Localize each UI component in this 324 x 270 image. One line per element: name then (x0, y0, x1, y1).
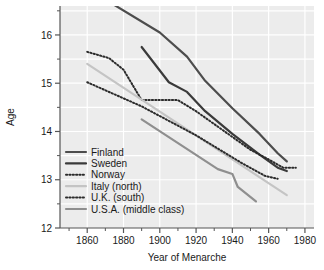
legend-label: Sweden (91, 158, 127, 169)
x-tick-label: 1920 (185, 235, 208, 246)
y-tick-label: 12 (41, 223, 53, 234)
chart-container: 12131415161860188019001920194019601980Ye… (0, 0, 324, 270)
menarche-age-line-chart: 12131415161860188019001920194019601980Ye… (0, 0, 324, 270)
x-axis: 1860188019001920194019601980 (69, 228, 316, 246)
y-tick-label: 13 (41, 174, 53, 185)
y-axis: 1213141516 (41, 11, 60, 234)
legend-label: U.S.A. (middle class) (91, 204, 184, 215)
x-tick-label: 1940 (221, 235, 244, 246)
x-tick-label: 1980 (294, 235, 317, 246)
y-tick-label: 14 (41, 126, 53, 137)
y-axis-title: Age (5, 108, 16, 126)
x-axis-title: Year of Menarche (148, 252, 227, 263)
x-tick-label: 1900 (149, 235, 172, 246)
y-tick-label: 16 (41, 30, 53, 41)
legend-label: Norway (91, 169, 125, 180)
legend-label: Finland (91, 147, 124, 158)
x-tick-label: 1960 (258, 235, 281, 246)
x-tick-label: 1860 (76, 235, 99, 246)
legend-label: U.K. (south) (91, 192, 144, 203)
legend-label: Italy (north) (91, 181, 142, 192)
y-tick-label: 15 (41, 78, 53, 89)
x-tick-label: 1880 (112, 235, 135, 246)
